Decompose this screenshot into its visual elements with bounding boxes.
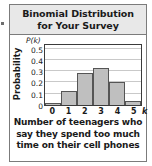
- x-axis-label: k: [142, 106, 147, 117]
- bar-slot: [45, 45, 61, 105]
- y-tick-label: 0.3: [31, 68, 43, 77]
- x-tick-label: 1: [60, 106, 76, 117]
- y-tick-label: 0.4: [31, 56, 43, 65]
- y-axis-label: Probability: [11, 39, 23, 109]
- figure-caption-line-3: time on their cell phones: [10, 140, 146, 152]
- bar-slot: [125, 45, 141, 105]
- bar-k-3: [93, 68, 109, 105]
- x-tick-label: 0: [44, 106, 60, 117]
- figure-caption: Number of teenagers who say they spend t…: [10, 117, 146, 152]
- bar-k-5: [125, 101, 141, 106]
- x-tick-label: 4: [109, 106, 125, 117]
- figure-title-line-1: Binomial Distribution: [22, 8, 134, 20]
- x-tick-label: 2: [77, 106, 93, 117]
- bar-k-1: [61, 91, 77, 105]
- y-tick-labels: 00.10.20.30.40.5: [23, 44, 44, 106]
- x-tick-labels: 012345: [44, 106, 142, 117]
- plot-area: [44, 44, 142, 106]
- figure-title-line-2: for Your Survey: [37, 20, 119, 32]
- figure-title-bar: Binomial Distribution for Your Survey: [10, 5, 146, 35]
- bar-slot: [77, 45, 93, 105]
- x-tick-label: 5: [126, 106, 142, 117]
- y-tick-label: 0.5: [31, 45, 43, 54]
- y-tick-label: 0.2: [31, 79, 43, 88]
- bar-slot: [61, 45, 77, 105]
- y-tick-label: 0.1: [31, 90, 43, 99]
- y-axis-label-text: Probability: [12, 48, 22, 101]
- y-tick-label: 0: [38, 102, 43, 111]
- bar-slot: [109, 45, 125, 105]
- figure-caption-line-1: Number of teenagers who: [10, 117, 146, 129]
- bar-k-0: [45, 103, 61, 105]
- plot-block: Probability P(k) 00.10.20.30.40.5 012345…: [10, 35, 146, 113]
- figure-caption-line-2: say they spend too much: [10, 129, 146, 141]
- bar-k-2: [77, 73, 93, 105]
- figure-panel: Binomial Distribution for Your Survey Pr…: [9, 4, 147, 162]
- x-tick-label: 3: [93, 106, 109, 117]
- bar-k-4: [109, 82, 125, 105]
- page-edge-mark: [1, 22, 4, 25]
- bar-series: [45, 45, 141, 105]
- bar-slot: [93, 45, 109, 105]
